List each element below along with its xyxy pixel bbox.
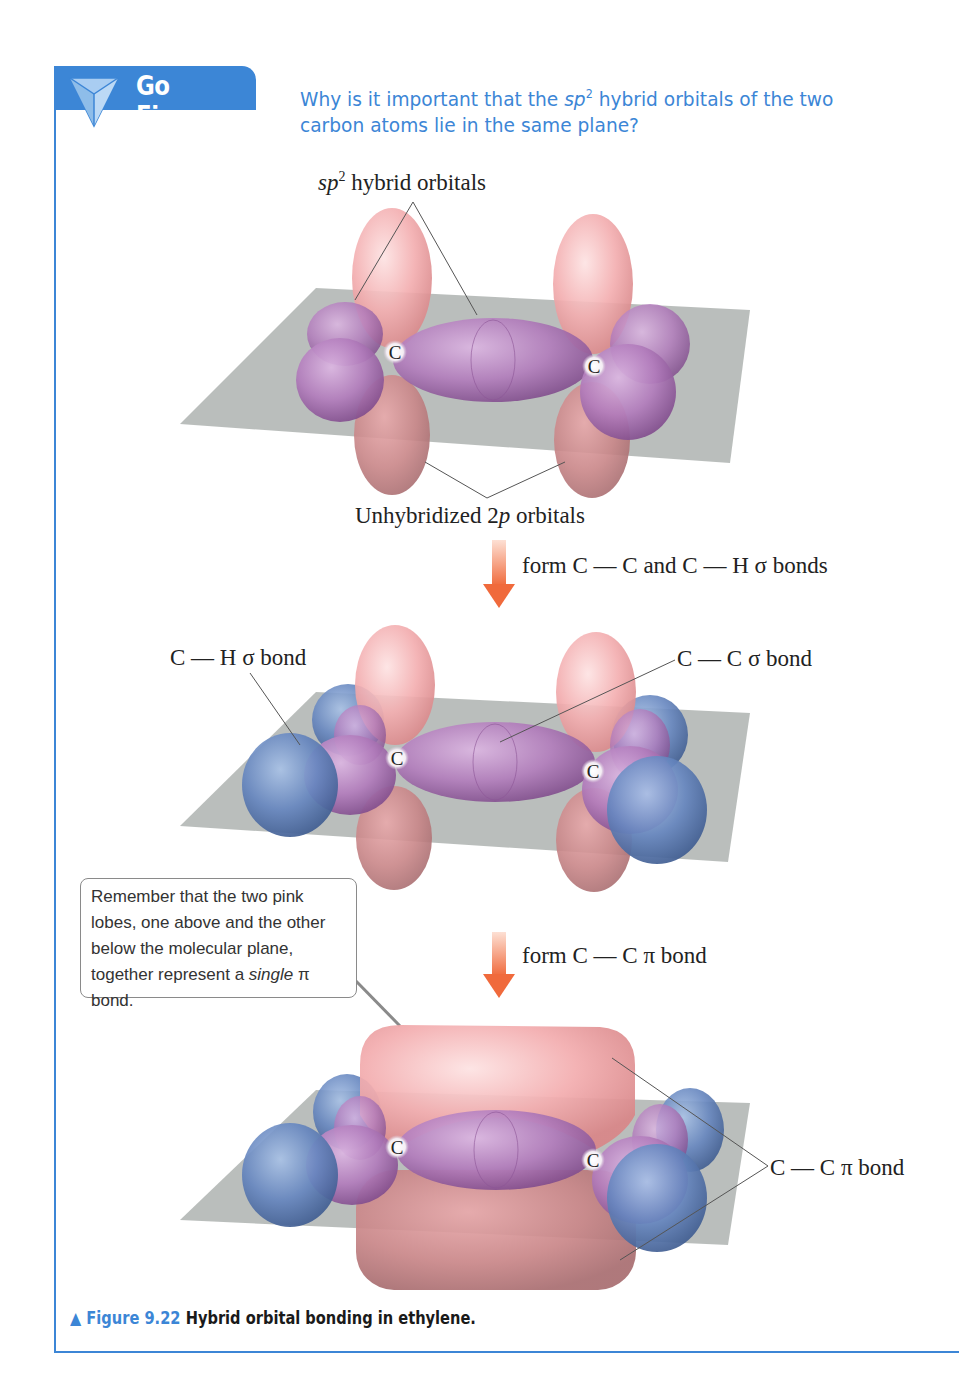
caption-marker-icon: ▲ [70,1308,81,1328]
step-1-label: form C — C and C — H σ bonds [522,553,828,579]
label-cc-pi-bond: C — C π bond [770,1155,904,1181]
leader-line [425,462,565,498]
sp2-lobe [296,338,384,422]
label-sp: sp [318,170,338,195]
hydrogen-orbital [607,756,707,864]
label-text: hybrid orbitals [345,170,486,195]
figure-description: Hybrid orbital bonding in ethylene. [186,1308,476,1328]
carbon-atom-label: C [391,1137,404,1158]
figure-number: Figure 9.22 [86,1308,180,1328]
step-2-label: form C — C π bond [522,943,707,969]
label-unhybridized-2p: Unhybridized 2p orbitals [355,503,585,529]
label-text: Unhybridized 2 [355,503,499,528]
label-cc-sigma-bond: C — C σ bond [677,646,812,672]
hydrogen-orbital [242,1123,338,1227]
orbital-diagrams: C C C C [0,0,977,1396]
figure-caption: ▲ Figure 9.22Hybrid orbital bonding in e… [70,1308,476,1328]
hydrogen-orbital [607,1144,707,1252]
callout-italic: single [249,965,293,984]
down-arrow-icon [483,540,515,608]
hydrogen-orbital [242,733,338,837]
label-sp2-hybrid-orbitals: sp2 hybrid orbitals [318,170,486,196]
diagram-1-unhybridized: C C [180,202,750,498]
carbon-atom-label: C [587,1150,600,1171]
label-p: p [499,503,511,528]
down-arrow-icon [483,932,515,998]
sp2-overlap-center [393,318,593,402]
carbon-atom-label: C [588,356,601,377]
carbon-atom-label: C [389,342,402,363]
carbon-atom-label: C [391,748,404,769]
diagram-3-pi-bond: C C [180,1025,768,1290]
label-ch-sigma-bond: C — H σ bond [170,645,306,671]
callout-note: Remember that the two pink lobes, one ab… [80,878,357,998]
cc-sigma-bond [396,1110,596,1190]
carbon-atom-label: C [587,761,600,782]
cc-sigma-bond [395,722,595,802]
callout-connector [355,980,400,1026]
label-text: orbitals [510,503,585,528]
